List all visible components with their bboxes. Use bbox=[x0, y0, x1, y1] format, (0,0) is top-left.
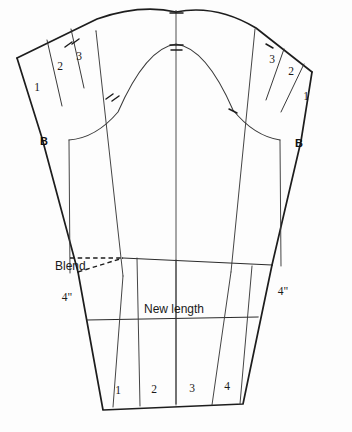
notch-left-inner-a bbox=[106, 94, 113, 99]
notch-left-cap-a bbox=[65, 42, 72, 47]
underarm-seam-left bbox=[69, 140, 70, 273]
hem-label-2: 2 bbox=[151, 383, 157, 395]
notch-right-cap bbox=[266, 44, 273, 48]
notch-left-inner-b bbox=[112, 96, 119, 101]
lower-panel-line-2 bbox=[137, 258, 140, 406]
point-b-left-label: B bbox=[40, 135, 48, 147]
lower-panel-line-5 bbox=[240, 266, 252, 404]
new-length-label: New length bbox=[144, 302, 204, 316]
wedge-divider-left-1 bbox=[47, 40, 62, 106]
right-wedge-label-3: 3 bbox=[269, 53, 275, 65]
body-panel-line-right bbox=[231, 29, 255, 272]
right-wedge-label-1: 1 bbox=[303, 90, 309, 102]
left-wedge-label-2: 2 bbox=[57, 60, 63, 72]
point-b-right-label: B bbox=[295, 137, 303, 149]
left-wedge-label-1: 1 bbox=[34, 81, 40, 93]
blend-level-line bbox=[123, 258, 272, 265]
hem-label-3: 3 bbox=[189, 382, 195, 394]
body-panel-line-left bbox=[96, 31, 123, 276]
lower-body-outline bbox=[78, 265, 272, 410]
sleeve-pattern-diagram: 1 2 3 3 2 1 B B Blend 4" 4" New length 1… bbox=[0, 0, 352, 432]
cap-outline-right bbox=[176, 10, 312, 72]
pattern-drawing: 1 2 3 3 2 1 B B Blend 4" 4" New length 1… bbox=[0, 0, 352, 432]
hem-label-1: 1 bbox=[115, 384, 121, 396]
left-wedge-label-3: 3 bbox=[76, 50, 82, 62]
underarm-seam-right bbox=[280, 140, 281, 266]
right-wedge-label-2: 2 bbox=[288, 65, 294, 77]
inch-label-right: 4" bbox=[278, 285, 288, 297]
blend-label: Blend bbox=[55, 259, 86, 273]
new-length-line bbox=[87, 317, 258, 320]
inch-label-left: 4" bbox=[62, 291, 72, 303]
hem-label-4: 4 bbox=[224, 380, 230, 392]
